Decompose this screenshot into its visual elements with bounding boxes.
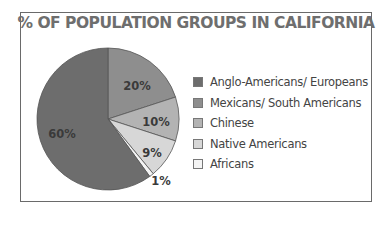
legend-item-africans: Africans bbox=[193, 154, 368, 175]
legend-swatch bbox=[193, 118, 203, 128]
legend-label: Anglo-Americans/ Europeans bbox=[210, 75, 368, 89]
legend-item-anglo-americans: Anglo-Americans/ Europeans bbox=[193, 72, 368, 93]
legend-label: Native Americans bbox=[210, 137, 307, 151]
legend-item-mexicans: Mexicans/ South Americans bbox=[193, 93, 368, 114]
legend-swatch bbox=[193, 98, 203, 108]
legend: Anglo-Americans/ Europeans Mexicans/ Sou… bbox=[193, 72, 368, 175]
legend-label: Africans bbox=[210, 157, 254, 171]
legend-swatch bbox=[193, 139, 203, 149]
legend-swatch bbox=[193, 77, 203, 87]
legend-label: Mexicans/ South Americans bbox=[210, 96, 361, 110]
legend-label: Chinese bbox=[210, 116, 254, 130]
slice-label: 1% bbox=[151, 174, 171, 188]
legend-item-native-americans: Native Americans bbox=[193, 134, 368, 155]
slice-label: 20% bbox=[123, 79, 151, 93]
slice-label: 10% bbox=[142, 115, 170, 129]
slice-label: 60% bbox=[48, 127, 76, 141]
legend-item-chinese: Chinese bbox=[193, 113, 368, 134]
legend-swatch bbox=[193, 159, 203, 169]
slice-label: 9% bbox=[142, 146, 162, 160]
